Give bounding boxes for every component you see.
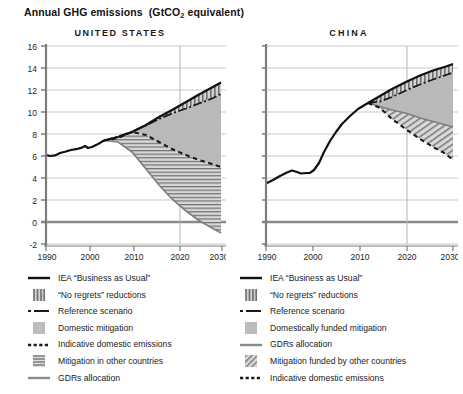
y-tick-label: 12	[28, 86, 38, 96]
legend-item: Mitigation funded by other countries	[240, 353, 462, 370]
x-tick-label: 1990	[258, 252, 277, 260]
title-main: Annual GHG emissions	[24, 6, 143, 18]
x-ticks-us	[46, 246, 222, 251]
horizontal-hatch-box-icon	[28, 355, 50, 367]
dotted-line-icon	[28, 339, 50, 351]
y-tick-label: -2	[29, 240, 37, 250]
y-tick-label: 0	[32, 218, 37, 228]
legend-item: “No regrets” reductions	[28, 287, 243, 304]
dash-dot-line-icon	[240, 305, 262, 317]
y-tick-label: 2	[32, 196, 37, 206]
legend-label: IEA “Business as Usual”	[58, 274, 150, 283]
x-tick-label: 2020	[171, 252, 190, 260]
diagonal-hatch-box-icon	[240, 355, 262, 367]
gray-line-icon	[28, 372, 50, 384]
x-tick-label: 1990	[38, 252, 57, 260]
legend-item: Reference scenario	[28, 303, 243, 320]
legend-label: “No regrets” reductions	[58, 291, 146, 300]
legend-item: Mitigation in other countries	[28, 353, 243, 370]
plot-area-china: 1990 2000 2010 2020 2030	[240, 42, 458, 260]
dotted-line-icon	[240, 372, 262, 384]
legend-united-states: IEA “Business as Usual” “No regrets” red…	[28, 270, 243, 386]
panel-title-us: UNITED STATES	[14, 28, 226, 38]
legend-label: Reference scenario	[270, 307, 345, 316]
vertical-hatch-box-icon	[28, 289, 50, 301]
gray-box-icon	[28, 322, 50, 334]
vertical-hatch-box-icon	[240, 289, 262, 301]
y-tick-label: 10	[28, 108, 38, 118]
legend-item: Reference scenario	[240, 303, 462, 320]
legend-item: IEA “Business as Usual”	[28, 270, 243, 287]
legend-label: Reference scenario	[58, 307, 133, 316]
solid-black-line-icon	[28, 272, 50, 284]
legend-item: GDRs allocation	[240, 336, 462, 353]
gray-line-icon	[240, 339, 262, 351]
x-tick-label: 2020	[398, 252, 417, 260]
y-tick-label: 8	[32, 130, 37, 140]
x-tick-label: 2030	[210, 252, 226, 260]
legend-item: GDRs allocation	[28, 370, 243, 387]
panel-united-states: UNITED STATES	[14, 28, 226, 260]
y-tick-label: 6	[32, 152, 37, 162]
legend-label: “No regrets” reductions	[270, 291, 358, 300]
y-tick-label: 4	[32, 174, 37, 184]
page-title: Annual GHG emissions (GtCO2 equivalent)	[24, 6, 244, 18]
legend-label: Mitigation funded by other countries	[270, 357, 406, 366]
legend-item: Indicative domestic emissions	[28, 336, 243, 353]
legend-label: Mitigation in other countries	[58, 357, 163, 366]
x-tick-label: 2010	[351, 252, 370, 260]
china-chart-svg: 1990 2000 2010 2020 2030	[240, 42, 458, 260]
x-ticks-china	[266, 246, 453, 251]
x-tick-label: 2010	[125, 252, 144, 260]
legend-item: Indicative domestic emissions	[240, 370, 462, 387]
y-tick-label: 16	[28, 42, 38, 52]
legend-label: GDRs allocation	[58, 374, 120, 383]
legend-label: GDRs allocation	[270, 340, 332, 349]
x-tick-label: 2000	[304, 252, 323, 260]
dash-dot-line-icon	[28, 305, 50, 317]
panel-china: CHINA	[240, 28, 458, 260]
chart-page: Annual GHG emissions (GtCO2 equivalent) …	[0, 0, 463, 394]
us-chart-svg: 16 14 12 10 8 6 4 2 0 -2 1990 2000 2010 …	[14, 42, 226, 260]
legend-label: Domestic mitigation	[58, 324, 133, 333]
legend-china: IEA “Business as Usual” “No regrets” red…	[240, 270, 462, 386]
legend-item: “No regrets” reductions	[240, 287, 462, 304]
y-tick-label: 14	[28, 64, 38, 74]
title-units: (GtCO2 equivalent)	[146, 6, 244, 18]
legend-item: Domestically funded mitigation	[240, 320, 462, 337]
legend-label: Indicative domestic emissions	[58, 340, 172, 349]
legend-item: IEA “Business as Usual”	[240, 270, 462, 287]
plot-area-us: 16 14 12 10 8 6 4 2 0 -2 1990 2000 2010 …	[14, 42, 226, 260]
legend-label: Domestically funded mitigation	[270, 324, 387, 333]
solid-black-line-icon	[240, 272, 262, 284]
x-tick-label: 2000	[81, 252, 100, 260]
legend-item: Domestic mitigation	[28, 320, 243, 337]
panel-title-china: CHINA	[240, 28, 458, 38]
gray-box-icon	[240, 322, 262, 334]
legend-label: IEA “Business as Usual”	[270, 274, 362, 283]
x-tick-label: 2030	[441, 252, 458, 260]
legend-label: Indicative domestic emissions	[270, 374, 384, 383]
